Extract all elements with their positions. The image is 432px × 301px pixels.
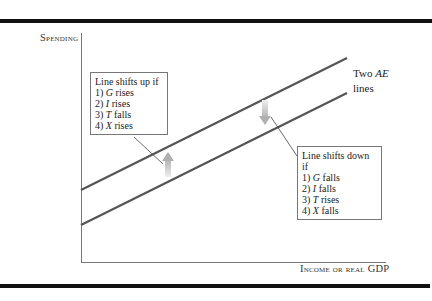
ae-label-italic: AE — [375, 67, 388, 79]
ae-label-suffix: lines — [353, 82, 374, 94]
x-axis-label-gdp: GDP — [368, 263, 390, 274]
x-axis-label: Income or real GDP — [300, 263, 389, 274]
shift-up-item: 3) T falls — [95, 109, 163, 120]
shift-down-item: 4) X falls — [302, 205, 377, 216]
shift-down-item: 2) I falls — [302, 183, 377, 194]
shift-up-item: 4) X rises — [95, 120, 163, 131]
shift-down-note: Line shifts down if 1) G falls 2) I fall… — [297, 146, 382, 220]
down-note-leader — [271, 117, 297, 156]
y-axis-label: Spending — [40, 32, 78, 43]
shift-up-title: Line shifts up if — [95, 76, 163, 87]
ae-lines-label: Two AE lines — [353, 66, 389, 96]
shift-up-item: 2) I rises — [95, 98, 163, 109]
ae-label-prefix: Two — [353, 67, 372, 79]
shift-down-item: 1) G falls — [302, 172, 377, 183]
shift-up-item: 1) G rises — [95, 87, 163, 98]
shift-down-item: 3) T rises — [302, 194, 377, 205]
shift-up-arrow-icon — [162, 152, 174, 177]
shift-down-arrow-icon — [259, 100, 271, 125]
shift-down-title: Line shifts down if — [302, 150, 377, 172]
shift-up-note: Line shifts up if 1) G rises 2) I rises … — [90, 72, 168, 135]
x-axis-label-text: Income or real — [300, 263, 365, 274]
